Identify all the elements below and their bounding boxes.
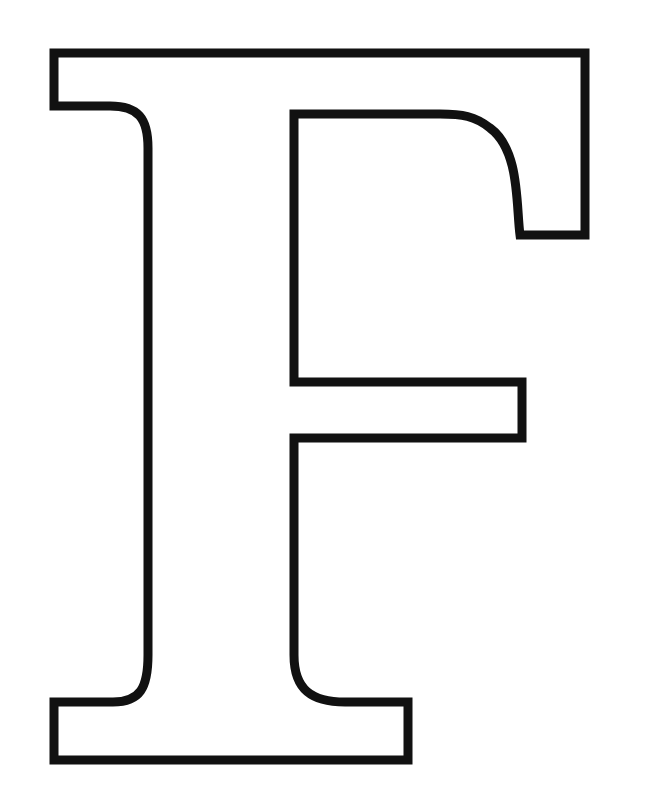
letter-f-shape: [54, 53, 585, 760]
letter-f-outline: [0, 0, 652, 801]
letter-canvas: F: [0, 0, 652, 801]
